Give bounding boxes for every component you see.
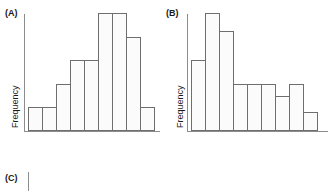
panel-a: (A) Frequency: [0, 0, 166, 160]
histogram-bar: [56, 84, 71, 131]
histogram-bar: [140, 107, 155, 131]
histogram-bar: [112, 13, 127, 131]
panel-a-bars: [28, 13, 154, 131]
histogram-bar: [233, 84, 248, 131]
panel-c-y-axis: [28, 172, 29, 191]
histogram-figure: (A) Frequency (B) Frequency (C): [0, 0, 334, 191]
histogram-bar: [84, 60, 99, 131]
panel-a-plot-area: [24, 0, 164, 160]
panel-b: (B) Frequency: [163, 0, 334, 160]
panel-b-y-axis-label: Frequency: [175, 85, 185, 128]
histogram-bar: [70, 60, 85, 131]
panel-a-label: (A): [5, 9, 18, 18]
histogram-bar: [205, 13, 220, 131]
histogram-bar: [42, 107, 57, 131]
histogram-bar: [275, 96, 290, 131]
panel-b-y-axis: [187, 14, 188, 132]
panel-b-bars: [191, 13, 317, 131]
histogram-bar: [126, 37, 141, 131]
panel-c-label: (C): [5, 174, 18, 183]
histogram-bar: [191, 60, 206, 131]
panel-a-y-axis-label: Frequency: [10, 85, 20, 128]
histogram-bar: [247, 84, 262, 131]
panel-a-y-axis: [24, 14, 25, 132]
panel-c-partial: (C): [0, 162, 334, 191]
histogram-bar: [219, 31, 234, 131]
panel-a-x-axis: [24, 131, 160, 132]
histogram-bar: [289, 84, 304, 131]
panel-b-label: (B): [166, 9, 179, 18]
panel-b-x-axis: [187, 131, 328, 132]
histogram-bar: [98, 13, 113, 131]
histogram-bar: [28, 107, 43, 131]
histogram-bar: [261, 84, 276, 131]
panel-b-plot-area: [187, 0, 332, 160]
histogram-bar: [303, 112, 318, 131]
